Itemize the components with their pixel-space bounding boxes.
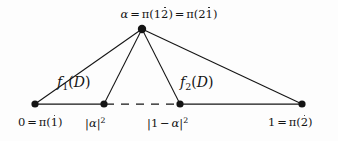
right-value: 1	[268, 115, 275, 129]
edge-apex-to-node1	[142, 29, 302, 104]
apex-close-paren-2: )	[213, 7, 218, 21]
apex-code-digit-dotted-2: 2	[161, 9, 168, 21]
left-close-paren: )	[58, 115, 63, 129]
right-equals: =	[277, 115, 287, 129]
minus-operator: −	[160, 116, 170, 130]
one-literal: 1	[151, 116, 158, 130]
f1-argument: D	[74, 74, 85, 90]
apex-equals-2: =	[175, 7, 185, 21]
left-code-digit-dotted: 1	[51, 117, 58, 129]
edge-apex-to-one-minus	[142, 29, 180, 104]
edge-apex-to-alpha-sq	[104, 29, 142, 104]
apex-code-digit-1: 1	[154, 7, 161, 21]
node-alpha-sq-label: |α|2	[85, 117, 106, 129]
exponent-two: 2	[183, 116, 188, 125]
right-code-digit-dotted: 2	[301, 117, 308, 129]
f2-close-paren: )	[208, 74, 213, 90]
apex-equals-1: =	[130, 7, 140, 21]
f1-close-paren: )	[85, 74, 90, 90]
region-label-f2: f2(D)	[180, 75, 213, 91]
exponent-two: 2	[101, 116, 106, 125]
f2-argument: D	[197, 74, 208, 90]
apex-code-digit-2: 2	[198, 7, 205, 21]
edge-apex-to-node0	[35, 29, 142, 104]
alpha-symbol: α	[89, 116, 97, 130]
node-0-label: 0=π(1)	[18, 117, 63, 129]
node-one-minus-alpha-sq-label: |1−α|2	[147, 117, 188, 129]
node-1-label: 1=π(2)	[268, 117, 313, 129]
right-close-paren: )	[308, 115, 313, 129]
node-1	[298, 100, 305, 107]
apex-code-digit-dotted-1: 1	[206, 9, 213, 21]
node-0	[31, 100, 38, 107]
figure-container: α=π(12)=π(21) 0=π(1) |α|2 |1−α|2 1=π(2) …	[0, 0, 338, 141]
node-alpha-sq	[100, 100, 107, 107]
region-label-f1: f1(D)	[57, 75, 90, 91]
apex-close-paren-1: )	[168, 7, 173, 21]
node-apex	[138, 25, 146, 33]
left-equals: =	[27, 115, 37, 129]
apex-alpha-symbol: α	[121, 7, 129, 21]
apex-node-label: α=π(12)=π(21)	[0, 9, 338, 21]
left-value: 0	[18, 115, 25, 129]
node-one-minus	[176, 100, 183, 107]
pi-symbol: π	[186, 7, 194, 21]
